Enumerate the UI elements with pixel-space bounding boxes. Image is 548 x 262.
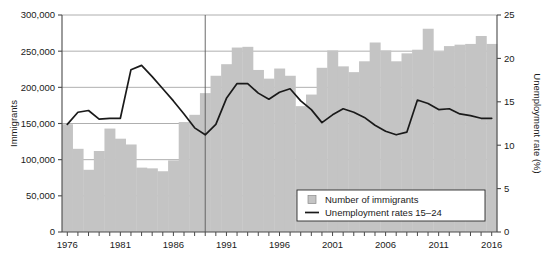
y-tick-label: 50,000 (26, 190, 55, 201)
bar (264, 79, 275, 232)
x-tick-label: 1981 (110, 239, 131, 250)
bar (83, 170, 94, 232)
bar (221, 64, 232, 232)
bar (232, 48, 243, 232)
y-tick-label: 100,000 (21, 154, 55, 165)
bar (211, 76, 222, 232)
bar (253, 70, 264, 232)
x-tick-label: 2001 (322, 239, 343, 250)
bar (157, 171, 168, 232)
y-tick-label: 250,000 (21, 46, 55, 57)
y-tick-label: 0 (50, 226, 55, 237)
y-axis-left-title: Immigrants (8, 100, 19, 147)
y2-tick-label: 25 (504, 9, 515, 20)
bar (73, 149, 84, 232)
x-tick-label: 1986 (163, 239, 184, 250)
y2-tick-label: 5 (504, 183, 509, 194)
y2-tick-label: 0 (504, 226, 509, 237)
bar (115, 139, 126, 232)
bar (285, 76, 296, 232)
y2-tick-label: 15 (504, 96, 515, 107)
chart-legend: Number of immigrantsUnemployment rates 1… (297, 190, 485, 221)
y-tick-label: 150,000 (21, 118, 55, 129)
bar (94, 151, 105, 232)
bar (189, 115, 200, 232)
immigrants-unemployment-chart: 050,000100,000150,000200,000250,000300,0… (0, 0, 548, 262)
y2-tick-label: 20 (504, 53, 515, 64)
bar (104, 129, 115, 232)
x-tick-label: 1996 (269, 239, 290, 250)
y-axis-right-title: Unemployment rate (%) (532, 73, 543, 173)
legend-label: Unemployment rates 15–24 (325, 207, 442, 218)
x-tick-label: 1976 (57, 239, 78, 250)
bar (126, 144, 137, 232)
bar (62, 124, 73, 232)
bar (179, 122, 190, 232)
y2-tick-label: 10 (504, 140, 515, 151)
x-tick-label: 1991 (216, 239, 237, 250)
x-tick-label: 2011 (428, 239, 448, 250)
legend-swatch-bar (308, 196, 316, 204)
bar (242, 47, 253, 232)
bar (486, 44, 497, 232)
bar (136, 168, 147, 232)
legend-label: Number of immigrants (325, 194, 419, 205)
y-tick-label: 300,000 (21, 9, 55, 20)
x-tick-label: 2016 (481, 239, 502, 250)
y-tick-label: 200,000 (21, 82, 55, 93)
bar (147, 168, 158, 232)
x-tick-label: 2006 (375, 239, 396, 250)
bar (168, 160, 179, 232)
chart-container: 050,000100,000150,000200,000250,000300,0… (0, 0, 548, 262)
